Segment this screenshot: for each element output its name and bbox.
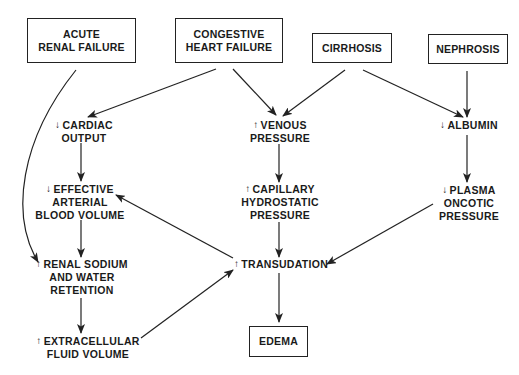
increase-arrow-icon: ↑ bbox=[234, 257, 239, 270]
cause-box-nephrosis: NEPHROSIS bbox=[428, 34, 508, 64]
cause-box-acute-renal-failure: ACUTE RENAL FAILURE bbox=[27, 18, 136, 63]
edge-chf-to-venous-pressure bbox=[233, 69, 276, 115]
node-effective-arterial-blood-volume: ↓EFFECTIVE ARTERIAL BLOOD VOLUME bbox=[34, 183, 126, 222]
edema-pathophysiology-diagram: ACUTE RENAL FAILURE CONGESTIVE HEART FAI… bbox=[0, 0, 519, 375]
increase-arrow-icon: ↑ bbox=[253, 118, 258, 131]
increase-arrow-icon: ↑ bbox=[245, 182, 250, 195]
edge-cirrhosis-to-venous-pressure bbox=[283, 70, 345, 116]
decrease-arrow-icon: ↓ bbox=[46, 182, 51, 195]
node-extracellular-fluid-volume: ↑EXTRACELLULAR FLUID VOLUME bbox=[36, 335, 140, 361]
label-line: NEPHROSIS bbox=[436, 43, 500, 56]
outcome-box-edema: EDEMA bbox=[249, 326, 308, 357]
cause-box-cirrhosis: CIRRHOSIS bbox=[312, 33, 392, 63]
edge-cirrhosis-to-albumin bbox=[363, 70, 463, 117]
node-albumin: ↓ALBUMIN bbox=[434, 119, 504, 132]
decrease-arrow-icon: ↓ bbox=[442, 183, 447, 196]
label-line: RENAL FAILURE bbox=[38, 41, 124, 54]
edge-ecf-to-transudation bbox=[141, 270, 233, 338]
edge-plasma-oncotic-to-transudation bbox=[327, 204, 433, 264]
label-line: ACUTE bbox=[63, 28, 100, 41]
edge-chf-to-cardiac-output bbox=[88, 69, 216, 117]
increase-arrow-icon: ↑ bbox=[36, 257, 41, 270]
edge-transudation-to-eabv bbox=[116, 195, 233, 258]
node-capillary-hydrostatic-pressure: ↑CAPILLARY HYDROSTATIC PRESSURE bbox=[238, 183, 322, 222]
label-line: EDEMA bbox=[259, 335, 298, 348]
increase-arrow-icon: ↑ bbox=[36, 334, 41, 347]
node-plasma-oncotic-pressure: ↓PLASMA ONCOTIC PRESSURE bbox=[436, 184, 502, 223]
node-renal-sodium-water-retention: ↑RENAL SODIUM AND WATER RETENTION bbox=[36, 258, 128, 297]
decrease-arrow-icon: ↓ bbox=[440, 118, 445, 131]
node-cardiac-output: ↓CARDIAC OUTPUT bbox=[52, 119, 116, 145]
label-line: CONGESTIVE bbox=[194, 28, 265, 41]
node-transudation: ↑TRANSUDATION bbox=[234, 258, 328, 271]
decrease-arrow-icon: ↓ bbox=[55, 118, 60, 131]
label-line: HEART FAILURE bbox=[186, 41, 273, 54]
label-line: CIRRHOSIS bbox=[322, 42, 382, 55]
edge-arf-to-renal-sodium bbox=[23, 70, 76, 262]
cause-box-congestive-heart-failure: CONGESTIVE HEART FAILURE bbox=[175, 18, 283, 63]
node-venous-pressure: ↑VENOUS PRESSURE bbox=[245, 119, 315, 145]
